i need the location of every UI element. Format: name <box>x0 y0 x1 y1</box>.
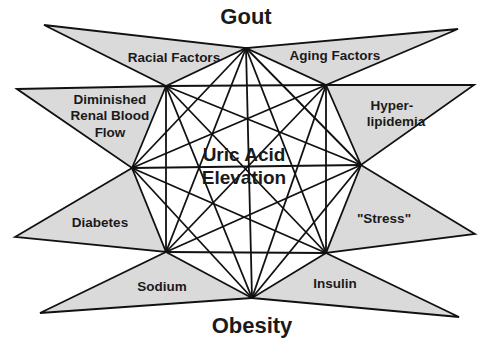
triangle-stress <box>326 165 475 253</box>
connection-line <box>166 85 326 86</box>
title-obesity: Obesity <box>212 313 293 338</box>
label-renal-line1: Diminished <box>74 92 147 107</box>
center-label-line1: Uric Acid <box>203 144 286 165</box>
label-renal-line3: Flow <box>95 125 126 140</box>
label-stress: "Stress" <box>357 211 411 226</box>
label-insulin: Insulin <box>313 276 357 291</box>
label-aging-factors: Aging Factors <box>290 48 381 63</box>
center-label-line2: Elevation <box>202 167 286 188</box>
title-gout: Gout <box>220 4 272 29</box>
label-sodium: Sodium <box>137 279 187 294</box>
label-renal-line2: Renal Blood <box>71 108 150 123</box>
label-racial-factors: Racial Factors <box>128 50 220 65</box>
connection-line <box>166 252 326 253</box>
label-hyperlipidemia-line2: lipidemia <box>367 114 426 129</box>
label-hyperlipidemia-line1: Hyper- <box>371 98 414 113</box>
label-diabetes: Diabetes <box>72 215 128 230</box>
uric-acid-diagram: Gout Obesity Uric Acid Elevation Racial … <box>0 0 487 353</box>
